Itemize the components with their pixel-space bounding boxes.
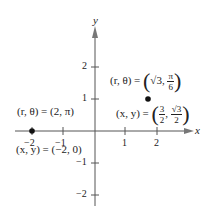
x-axis-label: x — [195, 124, 200, 136]
rect-y-fraction: √32 — [171, 104, 182, 125]
right-paren: ) — [182, 101, 189, 126]
y-axis-arrow-icon — [92, 26, 98, 38]
point-2-rect-label: (x, y) = (32, √32) — [116, 101, 190, 127]
fraction-denominator: 2 — [171, 115, 182, 125]
comma: , — [165, 107, 168, 119]
left-paren: ( — [152, 101, 159, 126]
y-tick-label: 2 — [82, 60, 87, 71]
point-1-rect-label: (x, y) = (−2, 0) — [16, 143, 82, 155]
y-axis-label: y — [93, 14, 98, 26]
y-tick-label: −1 — [76, 156, 87, 167]
y-tick-label: 1 — [82, 92, 87, 103]
fraction-numerator: √3 — [171, 104, 182, 115]
y-tick-label: −2 — [76, 188, 87, 199]
rect-prefix: (x, y) = — [116, 107, 152, 119]
point-1-polar-label: (r, θ) = (2, π) — [17, 105, 74, 117]
point-2-polar-label: (r, θ) = (√3, π6) — [110, 68, 181, 94]
x-tick-label: 1 — [122, 137, 127, 148]
point-polar-2-pi — [29, 128, 35, 134]
polar-r-value: √3, — [150, 74, 164, 86]
x-axis-arrow-icon — [184, 128, 194, 134]
x-tick-label: 2 — [154, 137, 159, 148]
right-paren: ) — [174, 68, 181, 93]
polar-prefix: (r, θ) = — [110, 74, 143, 86]
